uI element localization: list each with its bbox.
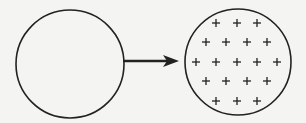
plus-icon [243,77,251,85]
plus-icon [233,19,241,27]
plus-icon [222,38,230,46]
plus-icon [192,58,200,66]
plus-icon [202,38,210,46]
plus-icon [212,19,220,27]
plus-icon [263,77,271,85]
diagram-canvas [0,0,306,123]
plus-icon [243,38,251,46]
arrow [123,55,179,67]
plus-icon [263,38,271,46]
plus-icon [253,58,261,66]
empty-circle [16,10,124,118]
plus-icon [233,97,241,105]
plus-icon [212,58,220,66]
plus-icon [202,77,210,85]
plus-icon [253,97,261,105]
plus-icon [233,58,241,66]
plus-icon [222,77,230,85]
plus-icon [253,19,261,27]
plus-icon [212,97,220,105]
plus-signs [192,19,281,105]
plus-icon [273,58,281,66]
